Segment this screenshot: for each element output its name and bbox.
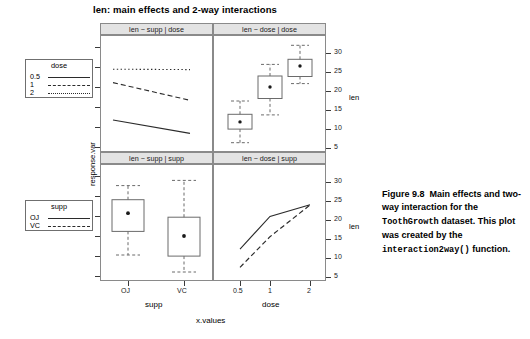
bottom-label-supp: supp <box>145 300 162 309</box>
legend-supp-key-1: VC <box>30 221 40 230</box>
caption-text-3: function. <box>472 244 510 254</box>
right-tick-15-b: 15 <box>334 234 342 241</box>
right-tick-20: 20 <box>334 86 342 93</box>
legend-dose-line-0 <box>48 77 90 78</box>
figure-caption: Figure 9.8 Main effects and two-way inte… <box>382 188 522 257</box>
bl-box-OJ <box>112 186 144 255</box>
right-tick-30-b: 30 <box>334 177 342 184</box>
tl-series-1 <box>113 83 190 101</box>
legend-dose: dose 0.5 1 2 <box>25 59 93 98</box>
right-tick-5-b: 5 <box>334 272 338 279</box>
caption-lead: Figure 9.8 <box>382 189 425 199</box>
bottom-tick-2: 2 <box>307 287 311 294</box>
x-axis-label: x.values <box>196 316 225 325</box>
legend-dose-title: dose <box>26 61 92 70</box>
legend-supp-line-0 <box>48 218 90 219</box>
tr-box-0.5 <box>228 101 252 143</box>
right-tick-25: 25 <box>334 67 342 74</box>
right-tick-20-b: 20 <box>334 215 342 222</box>
right-axis-label-top: len <box>349 93 359 102</box>
right-tick-30: 30 <box>334 48 342 55</box>
bottom-label-dose: dose <box>262 300 279 309</box>
br-series-OJ <box>240 205 310 249</box>
tr-box-2 <box>288 45 312 83</box>
legend-supp-line-1 <box>48 226 90 227</box>
right-tick-10: 10 <box>334 124 342 131</box>
y-axis-label: response.var <box>88 142 97 186</box>
right-tick-10-b: 10 <box>334 253 342 260</box>
legend-dose-line-2 <box>48 93 90 94</box>
right-axis-label-bottom: len <box>349 222 359 231</box>
bottom-tick-0.5: 0.5 <box>233 287 243 294</box>
br-series-VC <box>240 205 310 267</box>
legend-supp: supp OJ VC <box>25 200 93 231</box>
tr-box-1 <box>258 64 282 115</box>
plot-area: len ~ supp | dose len ~ dose | dose len … <box>0 0 370 339</box>
bottom-tick-1: 1 <box>268 287 272 294</box>
legend-dose-line-1 <box>48 85 90 86</box>
right-tick-5: 5 <box>334 143 338 150</box>
right-tick-25-b: 25 <box>334 196 342 203</box>
bottom-tick-VC: VC <box>177 287 187 294</box>
tl-series-0.5 <box>113 120 190 133</box>
bl-box-VC <box>168 180 200 272</box>
right-tick-15: 15 <box>334 105 342 112</box>
caption-mono-2: interaction2way() <box>382 245 470 255</box>
legend-dose-key-2: 2 <box>30 88 34 97</box>
figure-root: len: main effects and 2-way interactions… <box>0 0 530 339</box>
caption-mono-1: ToothGrowth <box>382 217 439 227</box>
legend-supp-title: supp <box>26 202 92 211</box>
bottom-tick-OJ: OJ <box>121 287 130 294</box>
